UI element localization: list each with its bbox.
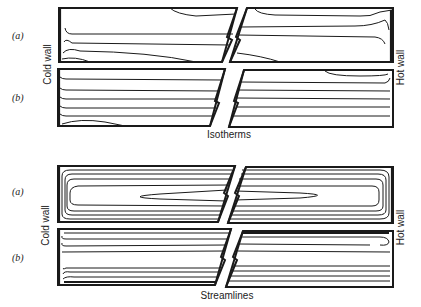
isotherm-line	[237, 90, 390, 91]
isotherm-line	[60, 97, 217, 99]
streamline	[238, 251, 390, 252]
streamline-core	[235, 191, 318, 200]
isotherm-line	[60, 106, 216, 108]
isotherm-line	[60, 114, 214, 116]
isotherms-panel-b-label: (b)	[12, 92, 24, 103]
isotherms-panel-b	[58, 69, 393, 127]
isotherm-line	[60, 77, 222, 80]
streamline	[62, 170, 232, 219]
isotherms-cold-wall-label: Cold wall	[42, 40, 53, 90]
isotherm-line	[60, 88, 220, 91]
figure-canvas: .box{fill:none;stroke:#1a1a1a;stroke-wid…	[0, 0, 421, 307]
streamlines-cold-wall-label: Cold wall	[40, 201, 51, 251]
streamline	[239, 244, 370, 245]
isotherm-line	[255, 9, 392, 16]
isotherm-line	[325, 71, 388, 76]
streamlines-panel-a	[58, 166, 393, 223]
streamlines-panel-b-label: (b)	[12, 252, 24, 263]
isotherm-line	[240, 20, 389, 30]
isotherm-line	[236, 98, 390, 99]
streamline	[63, 268, 220, 269]
isotherm-line	[65, 28, 233, 34]
streamline	[62, 251, 224, 252]
panel-frame-left	[59, 8, 237, 62]
isotherm-line	[237, 53, 280, 62]
streamline-core	[140, 190, 227, 201]
streamline	[235, 186, 379, 206]
panel-frame-left	[58, 69, 225, 126]
panel-frame-right	[226, 231, 393, 287]
isotherms-panel-a	[59, 8, 393, 62]
isotherms-hot-wall-label: Hot wall	[395, 43, 406, 93]
streamline	[62, 243, 226, 246]
streamline	[63, 277, 217, 279]
isotherm-line	[238, 35, 385, 44]
streamline	[231, 174, 386, 215]
streamline	[230, 170, 389, 219]
isotherm-line	[64, 40, 230, 45]
streamlines-panel-b	[58, 229, 393, 287]
isotherm-line	[170, 8, 236, 16]
isotherms-caption: Isotherms	[179, 129, 279, 140]
streamlines-caption: Streamlines	[177, 290, 277, 301]
isotherm-line	[240, 78, 390, 83]
isotherms-panel-a-label: (a)	[12, 30, 24, 41]
streamline	[62, 236, 228, 239]
streamlines-panel-a-label: (a)	[12, 186, 24, 197]
streamlines-hot-wall-label: Hot wall	[395, 203, 406, 253]
streamline	[70, 185, 229, 206]
streamline	[65, 174, 231, 215]
streamline	[63, 272, 218, 274]
